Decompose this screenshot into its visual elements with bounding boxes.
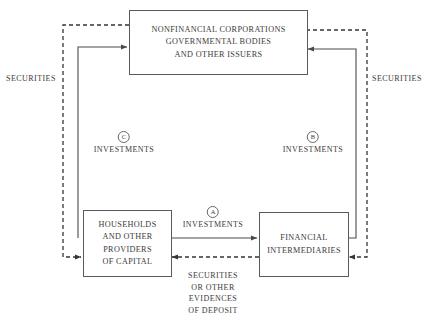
deposit-line-4: OF DEPOSIT <box>188 305 238 317</box>
flow-b-annotation: B INVESTMENTS <box>283 131 344 155</box>
households-line-4: OF CAPITAL <box>103 256 153 268</box>
households-box: HOUSEHOLDS AND OTHER PROVIDERS OF CAPITA… <box>83 210 172 277</box>
households-line-2: AND OTHER <box>102 231 152 243</box>
intermediaries-line-1: FINANCIAL <box>280 232 327 244</box>
deposit-line-2: OR OTHER <box>188 282 238 294</box>
deposit-evidence-label: SECURITIES OR OTHER EVIDENCES OF DEPOSIT <box>188 270 238 316</box>
flow-a-label: INVESTMENTS <box>183 219 244 230</box>
flow-c-label: INVESTMENTS <box>94 144 155 155</box>
intermediaries-line-2: INTERMEDIARIES <box>267 245 341 257</box>
securities-left-label: SECURITIES <box>6 73 56 85</box>
issuers-line-3: AND OTHER ISSUERS <box>175 49 263 61</box>
households-line-3: PROVIDERS <box>103 244 152 256</box>
issuers-line-2: GOVERNMENTAL BODIES <box>166 36 272 48</box>
flow-a-marker: A <box>207 206 219 218</box>
households-line-1: HOUSEHOLDS <box>98 219 156 231</box>
flow-b-marker: B <box>307 131 319 143</box>
nonfinancial-corporations-box: NONFINANCIAL CORPORATIONS GOVERNMENTAL B… <box>129 10 308 75</box>
financial-intermediaries-box: FINANCIAL INTERMEDIARIES <box>259 212 349 277</box>
deposit-line-1: SECURITIES <box>188 270 238 282</box>
diagram-canvas: NONFINANCIAL CORPORATIONS GOVERNMENTAL B… <box>0 0 434 324</box>
securities-right-label: SECURITIES <box>372 73 422 85</box>
flow-c-annotation: C INVESTMENTS <box>94 131 155 155</box>
flow-a-annotation: A INVESTMENTS <box>183 206 244 230</box>
issuers-line-1: NONFINANCIAL CORPORATIONS <box>151 24 285 36</box>
flow-c-marker: C <box>118 131 130 143</box>
flow-b-label: INVESTMENTS <box>283 144 344 155</box>
deposit-line-3: EVIDENCES <box>188 293 238 305</box>
